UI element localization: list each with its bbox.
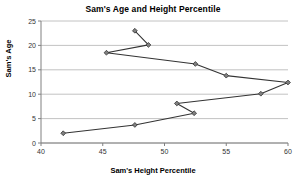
svg-text:10: 10 xyxy=(28,91,36,98)
svg-text:40: 40 xyxy=(37,148,45,155)
axis-lines xyxy=(41,21,288,143)
svg-text:15: 15 xyxy=(28,66,36,73)
svg-text:5: 5 xyxy=(32,115,36,122)
x-axis-ticks: 4045505560 xyxy=(37,143,292,155)
chart-container: Sam's Age and Height Percentile 40455055… xyxy=(0,0,306,187)
svg-text:60: 60 xyxy=(284,148,292,155)
y-axis-ticks: 0510152025 xyxy=(28,18,41,147)
svg-text:20: 20 xyxy=(28,42,36,49)
svg-text:50: 50 xyxy=(161,148,169,155)
svg-text:0: 0 xyxy=(32,140,36,147)
svg-text:45: 45 xyxy=(99,148,107,155)
gridlines xyxy=(41,21,288,143)
x-axis-label: Sam's Height Percentile xyxy=(0,166,306,175)
chart-plot-area: 4045505560 0510152025 xyxy=(0,0,306,187)
data-series-markers xyxy=(61,28,291,135)
data-series-line xyxy=(63,31,288,133)
svg-text:25: 25 xyxy=(28,18,36,25)
svg-text:55: 55 xyxy=(222,148,230,155)
y-axis-label: Sam's Age xyxy=(4,27,13,91)
